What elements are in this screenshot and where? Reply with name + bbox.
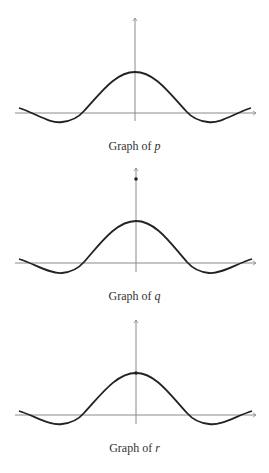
graph-q-caption: Graph of q — [0, 289, 269, 304]
x-axis-arrow-icon — [253, 413, 256, 417]
caption-variable: r — [155, 441, 160, 455]
marked-point-dot — [134, 371, 138, 375]
curve-q — [19, 221, 252, 273]
graph-p-caption: Graph of p — [0, 139, 269, 154]
graph-p-panel: Graph of p — [0, 0, 269, 158]
graph-r-caption: Graph of r — [0, 441, 269, 456]
x-axis-arrow-icon — [253, 261, 256, 265]
graph-p-plot — [0, 0, 269, 158]
caption-variable: p — [154, 139, 160, 153]
marked-point-dot — [134, 177, 138, 181]
caption-prefix: Graph of — [109, 441, 155, 455]
y-axis-arrow-icon — [134, 320, 138, 323]
caption-prefix: Graph of — [109, 139, 155, 153]
y-axis-arrow-icon — [134, 168, 138, 171]
curve-r — [19, 373, 252, 424]
caption-variable: q — [154, 289, 160, 303]
caption-prefix: Graph of — [109, 289, 155, 303]
